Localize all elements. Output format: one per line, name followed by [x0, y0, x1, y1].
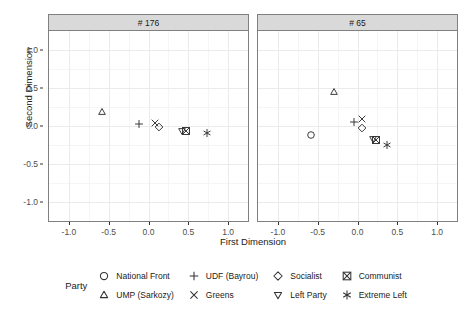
legend-key-asterisk-icon — [340, 288, 354, 302]
gridline-major-horizontal — [49, 50, 248, 51]
x-axis-tick-mark — [318, 222, 319, 225]
x-axis-tick-mark — [437, 222, 438, 225]
x-axis-tick-mark — [69, 222, 70, 225]
y-axis-tick-mark — [40, 202, 43, 203]
x-axis-tick-mark — [109, 222, 110, 225]
legend-item-label: UMP (Sarkozy) — [116, 290, 173, 300]
legend-item-label: Greens — [206, 290, 234, 300]
gridline-major-horizontal — [258, 126, 457, 127]
legend-item: Left Party — [271, 288, 326, 302]
x-axis-tick-mark — [149, 222, 150, 225]
y-axis-tick-mark — [40, 88, 43, 89]
legend-item: UDF (Bayrou) — [187, 269, 258, 283]
legend-key-plus-icon — [187, 269, 201, 283]
x-axis-tick-mark — [228, 222, 229, 225]
gridline-major-horizontal — [258, 164, 457, 165]
data-point-plus-icon — [133, 119, 144, 130]
y-axis-tick-mark — [40, 164, 43, 165]
y-axis-tick-label: -0.5 — [23, 159, 38, 169]
gridline-major-horizontal — [49, 164, 248, 165]
plot-area-right — [258, 31, 457, 221]
legend: Party National FrontUDF (Bayrou)Socialis… — [0, 258, 472, 312]
legend-item: Communist — [340, 269, 407, 283]
legend-item-label: Communist — [359, 271, 402, 281]
legend-item-label: Extreme Left — [359, 290, 407, 300]
legend-item-label: Socialist — [290, 271, 322, 281]
data-point-triangle-down-icon — [176, 126, 187, 137]
gridline-major-horizontal — [49, 126, 248, 127]
gridline-major-horizontal — [258, 202, 457, 203]
facet-strip-label-left: # 176 — [49, 15, 248, 31]
chart-root: Second Dimension 1.00.50.0-0.5-1.0 # 176… — [0, 0, 472, 312]
legend-item-label: National Front — [116, 271, 169, 281]
legend-item: UMP (Sarkozy) — [97, 288, 173, 302]
y-axis-tick-mark — [40, 126, 43, 127]
y-axis-tick-label: 0.5 — [26, 83, 38, 93]
legend-item-label: Left Party — [290, 290, 326, 300]
legend-item: National Front — [97, 269, 173, 283]
legend-item: Extreme Left — [340, 288, 407, 302]
y-axis-tick-label: 1.0 — [26, 45, 38, 55]
facet-panel-left: # 176 — [48, 14, 249, 222]
legend-key-boxed-cross-icon — [340, 269, 354, 283]
x-axis-tick-mark — [358, 222, 359, 225]
legend-key-triangle-icon — [97, 288, 111, 302]
x-axis-tick-mark — [278, 222, 279, 225]
facet-panel-right: # 65 — [257, 14, 458, 222]
data-point-asterisk-icon — [201, 127, 212, 138]
legend-item: Socialist — [271, 269, 326, 283]
legend-key-cross-icon — [187, 288, 201, 302]
legend-key-triangle-down-icon — [271, 288, 285, 302]
data-point-boxed-cross-icon — [370, 134, 381, 145]
data-point-triangle-icon — [97, 107, 108, 118]
facet-strip-label-right: # 65 — [258, 15, 457, 31]
legend-key-circle-icon — [97, 269, 111, 283]
x-axis-title: First Dimension — [48, 236, 458, 247]
gridline-major-horizontal — [258, 88, 457, 89]
gridline-major-horizontal — [49, 88, 248, 89]
legend-item-label: UDF (Bayrou) — [206, 271, 258, 281]
legend-title: Party — [65, 280, 87, 291]
data-point-circle-icon — [305, 130, 316, 141]
data-point-boxed-cross-icon — [180, 126, 191, 137]
x-axis-tick-mark — [397, 222, 398, 225]
y-axis-tick-mark — [40, 50, 43, 51]
gridline-major-horizontal — [49, 202, 248, 203]
x-axis-tick-mark — [188, 222, 189, 225]
legend-item: Greens — [187, 288, 258, 302]
y-axis-tick-label: -1.0 — [23, 197, 38, 207]
plot-area-left — [49, 31, 248, 221]
gridline-major-horizontal — [258, 50, 457, 51]
y-axis-tick-label: 0.0 — [26, 121, 38, 131]
legend-key-diamond-icon — [271, 269, 285, 283]
legend-entries: National FrontUDF (Bayrou)SocialistCommu… — [97, 266, 406, 304]
